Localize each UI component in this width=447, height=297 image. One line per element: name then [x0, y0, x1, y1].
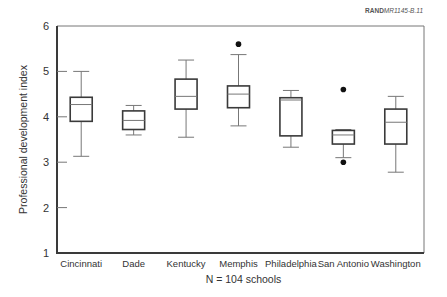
- box-iqr: [228, 86, 250, 108]
- box-iqr: [280, 98, 302, 136]
- x-tick-label: Philadelphia: [265, 258, 317, 269]
- y-tick-label: 3: [43, 156, 49, 168]
- x-tick-label: Memphis: [219, 258, 258, 269]
- box-iqr: [385, 109, 407, 144]
- y-tick-label: 4: [43, 111, 49, 123]
- y-tick-label: 2: [43, 202, 49, 214]
- box-iqr: [332, 130, 354, 144]
- y-tick-label: 1: [43, 247, 49, 259]
- box-iqr: [70, 97, 92, 121]
- x-tick-label: Washington: [371, 258, 421, 269]
- x-tick-label: San Antonio: [318, 258, 369, 269]
- box-iqr: [175, 79, 197, 109]
- y-axis-label: Professional development index: [17, 64, 29, 214]
- outlier-point: [236, 41, 242, 47]
- y-tick-label: 5: [43, 65, 49, 77]
- outlier-point: [341, 87, 347, 93]
- x-tick-label: Dade: [122, 258, 145, 269]
- y-tick-label: 6: [43, 20, 49, 32]
- box-plot-chart: 123456Professional development indexCinc…: [0, 0, 447, 297]
- x-axis-label: N = 104 schools: [206, 273, 282, 285]
- outlier-point: [341, 159, 347, 165]
- x-tick-label: Kentucky: [167, 258, 206, 269]
- x-tick-label: Cincinnati: [60, 258, 102, 269]
